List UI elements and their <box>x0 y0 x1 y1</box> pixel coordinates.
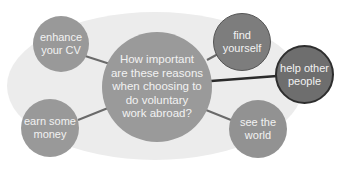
node-earn-some-money: earn some money <box>21 99 79 157</box>
node-label-line: people <box>280 75 329 88</box>
node-label-line: enhance <box>40 31 82 44</box>
center-line-1: How important <box>111 53 203 67</box>
node-help-other-people: help other people <box>275 45 334 104</box>
node-label-line: find <box>223 29 262 42</box>
node-label-line: see the <box>240 116 276 129</box>
center-line-2: are these reasons <box>111 67 203 81</box>
center-line-4: do voluntary <box>111 94 203 108</box>
node-label-line: your CV <box>40 44 82 57</box>
node-label-line: world <box>240 129 276 142</box>
node-label-line: help other <box>280 62 329 75</box>
center-question-node: How important are these reasons when cho… <box>102 32 212 142</box>
center-line-5: work abroad? <box>111 107 203 121</box>
node-label-line: money <box>24 128 76 141</box>
node-enhance-your-cv: enhance your CV <box>33 16 89 72</box>
node-label-line: earn some <box>24 115 76 128</box>
node-label-line: yourself <box>223 42 262 55</box>
center-line-3: when choosing to <box>111 80 203 94</box>
node-see-the-world: see the world <box>229 100 287 158</box>
node-find-yourself: find yourself <box>213 13 271 71</box>
